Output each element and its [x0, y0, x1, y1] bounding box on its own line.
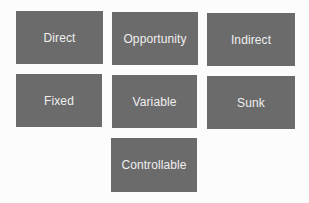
- box-controllable: Controllable: [111, 138, 197, 192]
- box-label: Indirect: [231, 33, 271, 47]
- box-label: Fixed: [44, 94, 74, 108]
- box-label: Variable: [133, 95, 177, 109]
- box-fixed: Fixed: [16, 74, 102, 127]
- box-sunk: Sunk: [207, 76, 295, 129]
- box-label: Direct: [44, 31, 76, 45]
- box-label: Controllable: [121, 158, 186, 172]
- box-direct: Direct: [16, 11, 103, 64]
- box-indirect: Indirect: [207, 13, 295, 66]
- box-label: Sunk: [237, 96, 265, 110]
- box-opportunity: Opportunity: [112, 12, 198, 65]
- box-label: Opportunity: [123, 32, 186, 46]
- box-variable: Variable: [112, 75, 197, 128]
